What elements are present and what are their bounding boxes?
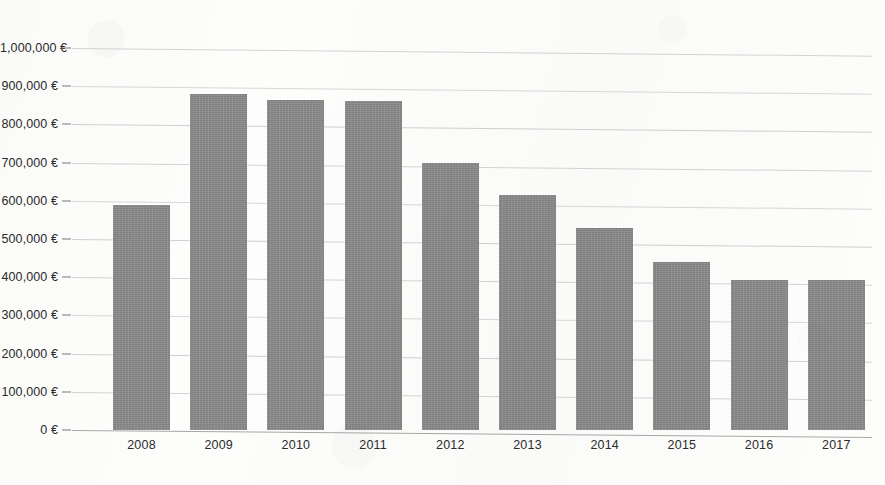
y-axis-tick-label: 500,000 € [0,232,58,246]
bar [190,94,247,430]
chart-page: 0 €100,000 €200,000 €300,000 €400,000 €5… [0,0,885,485]
bar [267,100,324,430]
y-axis-tick-mark [62,239,71,240]
x-axis-tick-label: 2010 [267,438,324,452]
x-axis-tick-label: 2017 [808,438,865,452]
x-axis-tick-label: 2012 [422,438,479,452]
x-axis-tick-label: 2009 [190,438,247,452]
y-axis-tick-label: 200,000 € [0,347,58,361]
y-axis-tick-label: 800,000 € [0,117,58,131]
bar-chart: 0 €100,000 €200,000 €300,000 €400,000 €5… [0,0,885,485]
bar [731,280,788,430]
x-axis-tick-label: 2016 [731,438,788,452]
bar [808,280,865,430]
bar [422,163,479,430]
y-axis-tick-mark [62,162,71,163]
x-axis-tick-label: 2008 [113,438,170,452]
y-axis-tick-mark [62,200,71,201]
y-axis-tick-mark [62,430,71,431]
x-axis-tick-label: 2015 [653,438,710,452]
y-axis-tick-mark [62,315,71,316]
y-axis-tick-label: 600,000 € [0,194,58,208]
bar [113,205,170,430]
y-axis-tick-mark [62,86,71,87]
gridline [72,48,872,57]
bar [576,228,633,430]
y-axis-tick-mark [62,277,71,278]
y-axis-tick-mark [62,124,71,125]
y-axis-tick-mark [62,391,71,392]
x-axis-tick-label: 2013 [499,438,556,452]
bar [499,195,556,430]
y-axis-tick-label: 700,000 € [0,156,58,170]
x-axis-baseline [72,430,872,438]
y-axis-tick-mark [62,48,71,49]
y-axis-tick-label: 1,000,000 € [0,41,58,55]
bar [653,262,710,430]
x-axis-tick-label: 2011 [345,438,402,452]
y-axis-tick-label: 300,000 € [0,308,58,322]
bar [345,101,402,430]
y-axis-tick-label: 900,000 € [0,79,58,93]
y-axis-tick-label: 0 € [0,423,58,437]
y-axis-tick-label: 100,000 € [0,385,58,399]
y-axis-tick-label: 400,000 € [0,270,58,284]
y-axis-tick-mark [62,353,71,354]
x-axis-tick-label: 2014 [576,438,633,452]
